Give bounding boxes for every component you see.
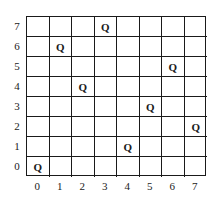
column-label: 7 [184, 180, 207, 192]
queen-piece: Q [146, 101, 155, 113]
queen-piece: Q [168, 61, 177, 73]
board-cell-r6-c1: Q [50, 37, 73, 57]
board-cell-r7-c7 [185, 17, 208, 37]
queen-piece: Q [123, 141, 132, 153]
board-cell-r0-c4 [117, 157, 140, 177]
board-cell-r5-c6: Q [162, 57, 185, 77]
column-label: 0 [26, 180, 49, 192]
queen-piece: Q [191, 121, 200, 133]
board-cell-r0-c5 [140, 157, 163, 177]
board-cell-r3-c1 [50, 97, 73, 117]
column-label: 6 [161, 180, 184, 192]
board-cell-r0-c0: Q [27, 157, 50, 177]
row-label: 0 [12, 156, 22, 176]
board-cell-r5-c1 [50, 57, 73, 77]
queen-piece: Q [101, 21, 110, 33]
board-cell-r5-c0 [27, 57, 50, 77]
board-cell-r0-c2 [72, 157, 95, 177]
row-label: 5 [12, 56, 22, 76]
board-cell-r3-c5: Q [140, 97, 163, 117]
board-cell-r6-c4 [117, 37, 140, 57]
board-cell-r0-c3 [95, 157, 118, 177]
board-cell-r7-c2 [72, 17, 95, 37]
board-cell-r3-c6 [162, 97, 185, 117]
board-cell-r6-c7 [185, 37, 208, 57]
board-cell-r0-c1 [50, 157, 73, 177]
board-cell-r6-c3 [95, 37, 118, 57]
board-cell-r2-c0 [27, 117, 50, 137]
board-cell-r1-c3 [95, 137, 118, 157]
board-cell-r4-c5 [140, 77, 163, 97]
board-cell-r1-c4: Q [117, 137, 140, 157]
board-cell-r6-c6 [162, 37, 185, 57]
column-label: 3 [94, 180, 117, 192]
queen-piece: Q [33, 161, 42, 173]
board-cell-r7-c3: Q [95, 17, 118, 37]
board-cell-r2-c2 [72, 117, 95, 137]
board-cell-r1-c6 [162, 137, 185, 157]
queen-piece: Q [56, 41, 65, 53]
board-cell-r7-c1 [50, 17, 73, 37]
column-label: 2 [71, 180, 94, 192]
queen-piece: Q [78, 81, 87, 93]
board-cell-r4-c3 [95, 77, 118, 97]
board-cell-r4-c0 [27, 77, 50, 97]
row-label: 3 [12, 96, 22, 116]
row-label: 6 [12, 36, 22, 56]
board-cell-r2-c5 [140, 117, 163, 137]
board-cell-r4-c6 [162, 77, 185, 97]
board-cell-r6-c2 [72, 37, 95, 57]
board-cell-r5-c5 [140, 57, 163, 77]
board-cell-r2-c1 [50, 117, 73, 137]
board-cell-r4-c4 [117, 77, 140, 97]
column-label: 4 [116, 180, 139, 192]
board-cell-r1-c5 [140, 137, 163, 157]
board-cell-r6-c5 [140, 37, 163, 57]
board-cell-r0-c7 [185, 157, 208, 177]
board-cell-r3-c0 [27, 97, 50, 117]
board-cell-r5-c2 [72, 57, 95, 77]
board-cell-r5-c7 [185, 57, 208, 77]
row-label: 1 [12, 136, 22, 156]
chess-board-grid: QQQQQQQQ [26, 16, 206, 176]
board-cell-r7-c6 [162, 17, 185, 37]
board-cell-r6-c0 [27, 37, 50, 57]
board-cell-r2-c6 [162, 117, 185, 137]
board-cell-r7-c4 [117, 17, 140, 37]
row-label: 2 [12, 116, 22, 136]
board-cell-r3-c7 [185, 97, 208, 117]
board-cell-r5-c3 [95, 57, 118, 77]
board-cell-r1-c2 [72, 137, 95, 157]
board-cell-r3-c4 [117, 97, 140, 117]
board-cell-r4-c1 [50, 77, 73, 97]
board-cell-r3-c2 [72, 97, 95, 117]
board-cell-r4-c7 [185, 77, 208, 97]
board-cell-r1-c7 [185, 137, 208, 157]
board-cell-r2-c4 [117, 117, 140, 137]
board-cell-r2-c3 [95, 117, 118, 137]
board-cell-r1-c0 [27, 137, 50, 157]
board-cell-r7-c5 [140, 17, 163, 37]
board-cell-r4-c2: Q [72, 77, 95, 97]
column-label: 5 [139, 180, 162, 192]
board-cell-r1-c1 [50, 137, 73, 157]
board-cell-r5-c4 [117, 57, 140, 77]
row-label: 4 [12, 76, 22, 96]
row-label: 7 [12, 16, 22, 36]
board-cell-r3-c3 [95, 97, 118, 117]
column-label: 1 [49, 180, 72, 192]
board-cell-r7-c0 [27, 17, 50, 37]
board-cell-r0-c6 [162, 157, 185, 177]
board-cell-r2-c7: Q [185, 117, 208, 137]
